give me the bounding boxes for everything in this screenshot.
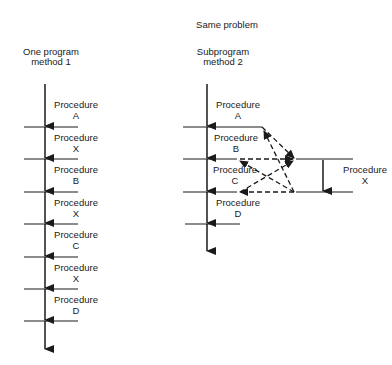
right-procedure-d: Procedure D [216, 197, 260, 219]
diagram-title: Same problem [196, 19, 258, 30]
right-flow: Procedure A Procedure B Procedure C Proc… [183, 84, 387, 251]
svg-text:Procedure: Procedure [213, 164, 257, 175]
svg-text:X: X [362, 175, 369, 186]
svg-text:D: D [73, 305, 80, 316]
svg-text:Procedure: Procedure [54, 197, 98, 208]
svg-text:Procedure: Procedure [216, 197, 260, 208]
svg-text:D: D [235, 208, 242, 219]
right-heading-line2: method 2 [203, 56, 243, 67]
program-structure-diagram: Same problem One program method 1 Subpro… [0, 0, 392, 365]
left-heading-line2: method 1 [31, 56, 71, 67]
left-procedure-a: Procedure A [54, 99, 98, 121]
svg-text:X: X [73, 143, 80, 154]
svg-text:Procedure: Procedure [214, 132, 258, 143]
svg-text:X: X [73, 273, 80, 284]
svg-text:C: C [232, 175, 239, 186]
left-procedure-x-3: Procedure X [54, 262, 98, 284]
svg-text:C: C [73, 240, 80, 251]
svg-text:Procedure: Procedure [54, 164, 98, 175]
svg-text:Procedure: Procedure [343, 164, 387, 175]
subprogram-procedure-x: Procedure X [343, 164, 387, 186]
left-procedure-x-1: Procedure X [54, 132, 98, 154]
left-procedure-b: Procedure B [54, 164, 98, 186]
svg-text:B: B [233, 143, 239, 154]
left-procedure-c: Procedure C [54, 229, 98, 251]
call-arrow-1 [262, 127, 294, 158]
svg-text:Procedure: Procedure [54, 229, 98, 240]
svg-text:Procedure: Procedure [54, 294, 98, 305]
right-procedure-b: Procedure B [214, 132, 258, 154]
svg-text:B: B [73, 175, 79, 186]
svg-text:Procedure: Procedure [54, 132, 98, 143]
svg-text:Procedure: Procedure [54, 262, 98, 273]
left-procedure-x-2: Procedure X [54, 197, 98, 219]
right-procedure-a: Procedure A [216, 99, 260, 121]
svg-text:Procedure: Procedure [54, 99, 98, 110]
left-procedure-d: Procedure D [54, 294, 98, 316]
left-flow: Procedure A Procedure X Procedure B Proc… [24, 84, 98, 349]
svg-text:Procedure: Procedure [216, 99, 260, 110]
svg-text:A: A [235, 110, 242, 121]
svg-text:A: A [73, 110, 80, 121]
svg-text:X: X [73, 208, 80, 219]
